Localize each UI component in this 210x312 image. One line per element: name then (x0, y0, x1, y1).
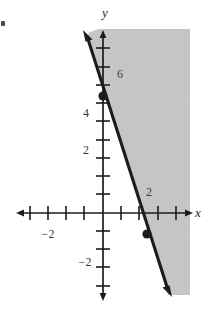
point-second (142, 229, 151, 238)
point-y-intercept (98, 91, 107, 100)
x-tick-label-neg2: −2 (42, 227, 55, 241)
graph-figure: x y −2 6 4 2 −2 2 (0, 0, 210, 312)
scan-artifact-mark (1, 21, 5, 26)
y-tick-label-6: 6 (117, 67, 123, 81)
x-intercept-label-2: 2 (146, 185, 152, 199)
y-tick-label-neg2: −2 (79, 255, 92, 269)
y-axis-label: y (100, 5, 108, 20)
coordinate-plane-svg: x y −2 6 4 2 −2 2 (0, 0, 210, 312)
y-tick-label-2: 2 (83, 143, 89, 157)
y-axis-bottom-arrowhead (100, 293, 107, 301)
x-axis-label: x (194, 205, 201, 220)
x-axis-left-arrowhead (16, 210, 24, 217)
y-tick-label-4: 4 (83, 106, 89, 120)
